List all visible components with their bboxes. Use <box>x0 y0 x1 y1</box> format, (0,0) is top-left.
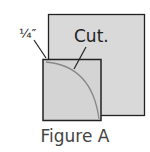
seam-allowance-label: ¼″ <box>19 26 37 41</box>
cut-label: Cut. <box>74 26 109 46</box>
figure-caption: Figure A <box>0 126 150 146</box>
seam-leader-line <box>34 40 46 58</box>
small-square <box>43 60 101 121</box>
